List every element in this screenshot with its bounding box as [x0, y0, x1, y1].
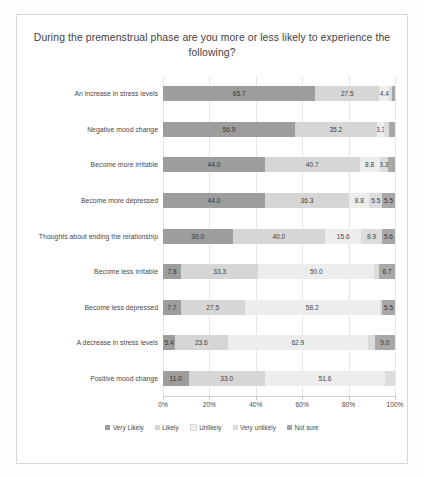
x-axis-tick-label: 40%	[249, 401, 262, 408]
legend-item[interactable]: Unlikely	[190, 424, 222, 431]
bar-value-label: 30.0	[191, 233, 204, 240]
bar-segment[interactable]: 7.7	[163, 300, 181, 315]
bar-value-label: 27.5	[341, 90, 354, 97]
bar-segment[interactable]: 9.0	[375, 335, 395, 350]
bar-segment[interactable]: 44.0	[163, 193, 265, 208]
stacked-bar[interactable]: 56.935.23.3	[163, 122, 395, 137]
legend-label: Unlikely	[199, 424, 221, 431]
bar-value-label: 11.0	[170, 375, 182, 382]
bar-segment[interactable]: 33.0	[189, 371, 266, 386]
bar-segment[interactable]: 27.5	[315, 86, 379, 101]
legend-swatch-icon	[190, 424, 197, 431]
legend-item[interactable]: Very unlikely	[233, 424, 276, 431]
bar-segment[interactable]: 58.2	[245, 300, 380, 315]
bar-segment[interactable]: 40.7	[265, 157, 359, 172]
bar-segment[interactable]: 33.3	[181, 264, 258, 279]
bar-segment[interactable]	[388, 157, 395, 172]
bar-segment[interactable]: 8.9	[361, 229, 382, 244]
bar-segment[interactable]: 30.0	[163, 229, 233, 244]
bar-segment[interactable]: 11.0	[163, 371, 189, 386]
x-axis-tick-label: 0%	[158, 401, 168, 408]
bar-segment[interactable]: 5.5	[382, 193, 395, 208]
legend-swatch-icon	[105, 425, 110, 430]
bar-value-label: 27.5	[206, 304, 219, 311]
legend-item[interactable]: Likely	[155, 424, 179, 431]
legend-item[interactable]: Very Likely	[105, 424, 143, 431]
bar-segment[interactable]	[368, 335, 375, 350]
legend-item[interactable]: Not sure	[287, 424, 319, 431]
bar-segment[interactable]: 50.0	[258, 264, 374, 279]
stacked-bar[interactable]: 44.040.78.83.3	[163, 157, 395, 172]
stacked-bar[interactable]: 7.833.350.06.7	[163, 264, 395, 279]
bar-segment[interactable]: 5.6	[382, 229, 395, 244]
bar-value-label: 8.8	[355, 197, 364, 204]
bar-segment[interactable]: 3.3	[377, 122, 385, 137]
x-axis-tick-label: 20%	[203, 401, 216, 408]
bar-value-label: 50.0	[310, 268, 323, 275]
bar-value-label: 3.3	[377, 126, 385, 133]
stacked-bar[interactable]: 11.033.051.6	[163, 371, 395, 386]
chart-page: During the premenstrual phase are you mo…	[0, 0, 424, 478]
bar-segment[interactable]: 40.0	[233, 229, 326, 244]
bar-value-label: 4.4	[380, 90, 389, 97]
legend-swatch-icon	[287, 425, 292, 430]
bar-value-label: 5.5	[384, 197, 393, 204]
bar-value-label: 3.3	[380, 161, 388, 168]
category-label: Positive mood change	[22, 375, 158, 382]
stacked-bar[interactable]: 30.040.015.68.95.6	[163, 229, 395, 244]
stacked-bar[interactable]: 7.727.558.25.5	[163, 300, 395, 315]
category-label: An increase in stress levels	[22, 90, 158, 97]
x-axis-tick	[256, 396, 257, 400]
bar-segment[interactable]: 7.8	[163, 264, 181, 279]
x-axis-tick-label: 100%	[387, 401, 404, 408]
gridline-100	[395, 76, 396, 396]
bar-segment[interactable]: 3.3	[380, 157, 388, 172]
bar-value-label: 35.2	[329, 126, 342, 133]
legend-label: Likely	[162, 424, 178, 431]
bar-value-label: 7.8	[167, 268, 176, 275]
bar-segment[interactable]: 5.5	[382, 300, 395, 315]
bar-value-label: 65.7	[233, 90, 246, 97]
bar-segment[interactable]: 4.4	[379, 86, 389, 101]
bar-value-label: 8.9	[367, 233, 376, 240]
bar-segment[interactable]	[385, 371, 395, 386]
bar-value-label: 33.3	[213, 268, 226, 275]
x-axis-tick	[209, 396, 210, 400]
bar-segment[interactable]: 65.7	[163, 86, 315, 101]
bar-value-label: 23.6	[195, 339, 208, 346]
bar-segment[interactable]: 36.3	[265, 193, 349, 208]
bar-segment[interactable]: 5.5	[369, 193, 382, 208]
bar-segment[interactable]: 44.0	[163, 157, 265, 172]
bar-segment[interactable]: 56.9	[163, 122, 295, 137]
bar-value-label: 5.5	[384, 304, 393, 311]
bar-segment[interactable]: 23.6	[175, 335, 228, 350]
x-axis-tick	[302, 396, 303, 400]
bar-segment[interactable]: 8.8	[349, 193, 369, 208]
bar-segment[interactable]: 8.8	[360, 157, 380, 172]
bar-segment[interactable]: 62.9	[228, 335, 368, 350]
plot-area: 65.727.54.456.935.23.344.040.78.83.344.0…	[163, 76, 395, 396]
stacked-bar[interactable]: 44.036.38.85.55.5	[163, 193, 395, 208]
bar-segment[interactable]	[389, 122, 395, 137]
bar-rows: 65.727.54.456.935.23.344.040.78.83.344.0…	[163, 76, 395, 396]
bar-segment[interactable]: 35.2	[295, 122, 377, 137]
bar-value-label: 56.9	[223, 126, 236, 133]
bar-segment[interactable]	[392, 86, 395, 101]
stacked-bar[interactable]: 5.423.662.99.0	[163, 335, 395, 350]
bar-segment[interactable]: 27.5	[181, 300, 245, 315]
category-label: A decrease in stress levels	[22, 339, 158, 346]
x-axis: 0%20%40%60%80%100%	[163, 396, 395, 412]
bar-segment[interactable]: 15.6	[325, 229, 361, 244]
bar-segment[interactable]: 51.6	[265, 371, 385, 386]
chart-legend: Very LikelyLikelyUnlikelyVery unlikelyNo…	[16, 424, 408, 431]
x-axis-tick	[395, 396, 396, 400]
stacked-bar[interactable]: 65.727.54.4	[163, 86, 395, 101]
legend-swatch-icon	[155, 425, 160, 430]
category-label: Become more depressed	[22, 197, 158, 204]
x-axis-tick	[349, 396, 350, 400]
bar-value-label: 9.0	[380, 339, 389, 346]
bar-segment[interactable]: 5.4	[163, 335, 175, 350]
x-axis-tick-label: 60%	[296, 401, 309, 408]
bar-segment[interactable]: 6.7	[379, 264, 395, 279]
bar-value-label: 44.0	[208, 197, 221, 204]
